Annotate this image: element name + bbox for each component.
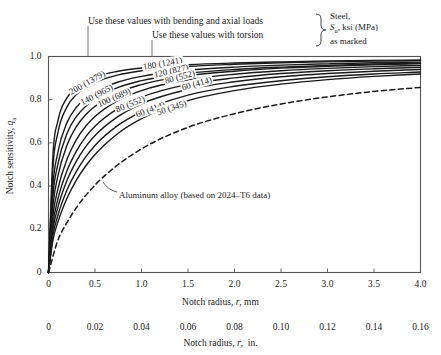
x-tick-in-0: 0 — [29, 322, 69, 332]
aluminum-curve-label: Aluminum alloy (based on 2024–T6 data) — [119, 190, 270, 200]
material-line-3: as marked — [330, 36, 378, 47]
material-callout: Steel, Su, ksi (MPa) as marked — [330, 11, 378, 46]
annotation-bending-loads: Use these values with bending and axial … — [88, 16, 263, 26]
x-axis-label-mm: Notch radius, r, mm — [0, 297, 441, 307]
x-tick-in-0.02: 0.02 — [75, 322, 115, 332]
x-tick-in-0.08: 0.08 — [215, 322, 255, 332]
x-tick-mm-2.5: 2.5 — [261, 279, 301, 289]
x-tick-in-0.14: 0.14 — [354, 322, 394, 332]
x-tick-in-0.06: 0.06 — [168, 322, 208, 332]
y-axis-label: Notch sensitivity, qa — [5, 91, 17, 221]
x-tick-in-0.12: 0.12 — [308, 322, 348, 332]
y-tick-0.8: 0.8 — [16, 94, 42, 104]
x-tick-mm-1.0: 1.0 — [122, 279, 162, 289]
x-tick-mm-0.5: 0.5 — [75, 279, 115, 289]
y-tick-0.4: 0.4 — [16, 180, 42, 190]
x-axis-label-in: Notch radius, r, in. — [0, 338, 441, 348]
material-line-1: Steel, — [330, 11, 378, 22]
x-tick-in-0.10: 0.10 — [261, 322, 301, 332]
x-tick-in-0.04: 0.04 — [122, 322, 162, 332]
x-tick-in-0.16: 0.16 — [401, 322, 441, 332]
y-tick-1.0: 1.0 — [16, 51, 42, 61]
x-tick-mm-2.0: 2.0 — [215, 279, 255, 289]
x-tick-mm-1.5: 1.5 — [168, 279, 208, 289]
x-tick-mm-4.0: 4.0 — [401, 279, 441, 289]
y-tick-0: 0 — [16, 267, 42, 277]
x-tick-mm-0: 0 — [29, 279, 69, 289]
y-tick-0.6: 0.6 — [16, 137, 42, 147]
x-tick-mm-3.5: 3.5 — [354, 279, 394, 289]
y-tick-0.2: 0.2 — [16, 223, 42, 233]
x-tick-mm-3.0: 3.0 — [308, 279, 348, 289]
annotation-torsion-loads: Use these values with torsion — [152, 30, 263, 40]
material-line-2: Su, ksi (MPa) — [330, 22, 378, 36]
